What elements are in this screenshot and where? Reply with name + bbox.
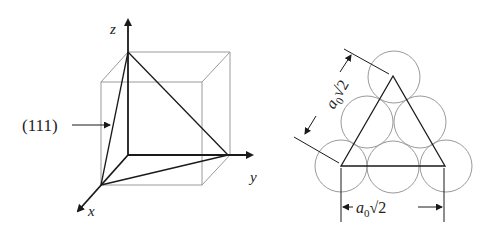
- diagram-canvas: z y x (111) a0√2 a0√2: [0, 0, 498, 235]
- atoms: [315, 51, 472, 193]
- unit-cell-cube: [101, 52, 230, 185]
- bottom-dimension-label: a0√2: [356, 199, 386, 219]
- z-axis-label: z: [109, 21, 116, 37]
- x-axis-label: x: [87, 203, 95, 219]
- x-axis: [78, 155, 128, 211]
- atom: [367, 141, 419, 193]
- diagram-stage: z y x (111) a0√2 a0√2: [0, 0, 498, 235]
- plane-label: (111): [22, 116, 58, 135]
- axes: [78, 20, 252, 211]
- side-dimension-label: a0√2: [322, 77, 354, 113]
- y-axis-label: y: [248, 169, 257, 185]
